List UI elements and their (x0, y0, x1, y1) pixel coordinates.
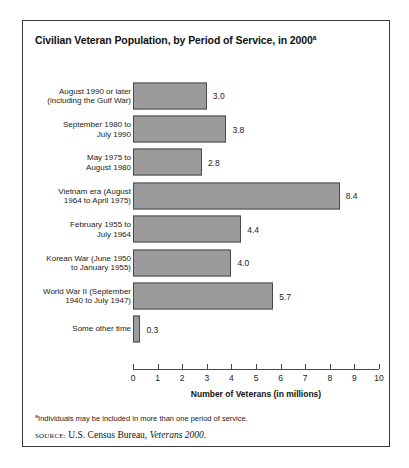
x-axis-tick-label: 7 (303, 373, 308, 383)
chart-title-text: Civilian Veteran Population, by Period o… (35, 34, 313, 46)
x-axis-tick-label: 1 (155, 373, 160, 383)
x-axis-tick-label: 0 (131, 373, 136, 383)
x-axis-tick-label: 6 (278, 373, 283, 383)
x-axis-tick-label: 3 (204, 373, 209, 383)
bar-value-label: 2.8 (202, 157, 220, 167)
bar-category-label: February 1955 to July 1964 (0, 220, 131, 239)
x-axis-tick (182, 364, 183, 369)
bar-value-label: 0.3 (140, 324, 158, 334)
bar-row: February 1955 to July 19644.4 (23, 213, 391, 246)
footnote: aIndividuals may be included in more tha… (35, 414, 379, 423)
x-axis-tick-label: 8 (327, 373, 332, 383)
source-publisher: U.S. Census Bureau, (66, 430, 150, 440)
bar-row: August 1990 or later (including the Gulf… (23, 79, 391, 112)
x-axis-tick (158, 364, 159, 369)
bar (133, 283, 273, 310)
bar-category-label: September 1980 to July 1990 (0, 120, 131, 139)
bar (133, 82, 207, 109)
bar-value-label: 4.0 (231, 258, 249, 268)
source-label: SOURCE: (35, 432, 66, 440)
bar-row: Vietnam era (August 1964 to April 1975)8… (23, 179, 391, 212)
x-axis-line (133, 369, 379, 370)
x-axis-tick-label: 10 (374, 373, 383, 383)
x-axis-tick (354, 364, 355, 369)
bar-category-label: Some other time (0, 325, 131, 334)
x-axis-tick (207, 364, 208, 369)
x-axis-tick (256, 364, 257, 369)
bar-track: 0.3 (133, 316, 379, 343)
bar-category-label: Vietnam era (August 1964 to April 1975) (0, 186, 131, 205)
x-axis-tick-label: 5 (254, 373, 259, 383)
x-axis-tick-label: 2 (180, 373, 185, 383)
bar-track: 4.4 (133, 216, 379, 243)
bar-row: Korean War (June 1950 to January 1955)4.… (23, 246, 391, 279)
bar-value-label: 3.8 (226, 124, 244, 134)
bar (133, 316, 140, 343)
bar-track: 8.4 (133, 182, 379, 209)
x-axis-tick (281, 364, 282, 369)
x-axis-ticks (133, 364, 379, 369)
bar-row: September 1980 to July 19903.8 (23, 112, 391, 145)
page-title: Civilian Veteran Population, by Period o… (35, 34, 379, 46)
bar (133, 182, 340, 209)
bar-row: May 1975 to August 19802.8 (23, 146, 391, 179)
source-title: Veterans 2000 (150, 430, 204, 440)
bar-value-label: 3.0 (207, 91, 225, 101)
x-axis: Number of Veterans (in millions) 0123456… (23, 369, 391, 409)
bar-row: Some other time0.3 (23, 313, 391, 346)
x-axis-tick-label: 4 (229, 373, 234, 383)
bar-category-label: May 1975 to August 1980 (0, 153, 131, 172)
x-axis-tick (133, 364, 134, 369)
x-axis-tick (379, 364, 380, 369)
bar (133, 216, 241, 243)
bar-row: World War II (September 1940 to July 194… (23, 279, 391, 312)
x-axis-tick (231, 364, 232, 369)
bar-category-label: World War II (September 1940 to July 194… (0, 287, 131, 306)
source-period: . (204, 430, 206, 440)
bar-track: 3.0 (133, 82, 379, 109)
bar-value-label: 4.4 (241, 224, 259, 234)
bar (133, 149, 202, 176)
x-axis-tick (330, 364, 331, 369)
chart-plot-area: August 1990 or later (including the Gulf… (23, 79, 391, 369)
bar-value-label: 5.7 (273, 291, 291, 301)
bar-category-label: August 1990 or later (including the Gulf… (0, 86, 131, 105)
x-axis-tick (305, 364, 306, 369)
bar-track: 2.8 (133, 149, 379, 176)
bar-track: 4.0 (133, 249, 379, 276)
bar-track: 3.8 (133, 116, 379, 143)
bar-value-label: 8.4 (340, 191, 358, 201)
x-axis-label: Number of Veterans (in millions) (133, 389, 379, 399)
source-note: SOURCE: U.S. Census Bureau, Veterans 200… (35, 430, 379, 441)
title-footnote-marker: a (313, 34, 317, 41)
bar-category-label: Korean War (June 1950 to January 1955) (0, 253, 131, 272)
footnote-text: Individuals may be included in more than… (38, 414, 248, 423)
bar (133, 116, 226, 143)
bar (133, 249, 231, 276)
bar-track: 5.7 (133, 283, 379, 310)
x-axis-tick-label: 9 (352, 373, 357, 383)
figure-frame: Civilian Veteran Population, by Period o… (22, 20, 390, 447)
